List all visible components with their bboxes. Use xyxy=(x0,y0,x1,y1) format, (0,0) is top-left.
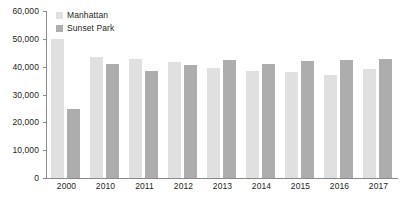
bar xyxy=(379,59,392,178)
x-tick-label: 2000 xyxy=(47,182,86,191)
bar-group xyxy=(242,11,281,178)
bar-group xyxy=(86,11,125,178)
legend-swatch-icon xyxy=(56,25,63,32)
bar xyxy=(301,61,314,178)
bar xyxy=(67,109,80,178)
y-axis: 60,00050,00040,00030,00020,00010,0000 xyxy=(0,0,42,208)
bar-group xyxy=(281,11,320,178)
bar xyxy=(145,71,158,178)
bar-group xyxy=(359,11,398,178)
x-tick-label: 2012 xyxy=(164,182,203,191)
legend-label: Manhattan xyxy=(67,11,108,20)
y-tick-label: 50,000 xyxy=(12,35,39,44)
y-tick-label: 10,000 xyxy=(12,146,39,155)
x-tick-label: 2011 xyxy=(125,182,164,191)
bar xyxy=(285,72,298,178)
x-axis: 200020102011201220132014201520162017 xyxy=(47,182,398,202)
legend-entry: Manhattan xyxy=(56,9,114,21)
bar xyxy=(106,64,119,178)
bar xyxy=(363,69,376,178)
bar-group xyxy=(203,11,242,178)
bar xyxy=(168,62,181,178)
x-tick-label: 2015 xyxy=(281,182,320,191)
x-tick-label: 2016 xyxy=(320,182,359,191)
y-tick-label: 30,000 xyxy=(12,90,39,99)
bar xyxy=(262,64,275,178)
y-tick-mark xyxy=(43,122,46,123)
y-tick-label: 60,000 xyxy=(12,7,39,16)
bar-group xyxy=(125,11,164,178)
bar xyxy=(324,75,337,178)
y-tick-mark xyxy=(43,95,46,96)
bar xyxy=(184,65,197,178)
bar xyxy=(90,57,103,178)
legend-swatch-icon xyxy=(56,12,63,19)
bar xyxy=(51,39,64,178)
legend-label: Sunset Park xyxy=(67,24,114,33)
x-tick-label: 2010 xyxy=(86,182,125,191)
plot-area xyxy=(47,11,398,178)
y-tick-mark xyxy=(43,67,46,68)
legend-entry: Sunset Park xyxy=(56,22,114,34)
bar-group xyxy=(164,11,203,178)
x-tick-label: 2017 xyxy=(359,182,398,191)
y-tick-mark xyxy=(43,178,46,179)
x-tick-label: 2014 xyxy=(242,182,281,191)
bar xyxy=(207,68,220,178)
bar-group xyxy=(47,11,86,178)
y-tick-label: 20,000 xyxy=(12,118,39,127)
y-tick-mark xyxy=(43,39,46,40)
bar xyxy=(246,71,259,178)
x-axis-line xyxy=(46,178,398,179)
x-tick-label: 2013 xyxy=(203,182,242,191)
y-tick-mark xyxy=(43,11,46,12)
bar xyxy=(340,60,353,178)
bar xyxy=(129,59,142,178)
bar-group xyxy=(320,11,359,178)
y-tick-label: 40,000 xyxy=(12,62,39,71)
bar-chart: 60,00050,00040,00030,00020,00010,0000 20… xyxy=(0,0,405,208)
chart-legend: ManhattanSunset Park xyxy=(56,9,114,35)
y-tick-label: 0 xyxy=(34,174,39,183)
bar xyxy=(223,60,236,178)
y-tick-mark xyxy=(43,150,46,151)
